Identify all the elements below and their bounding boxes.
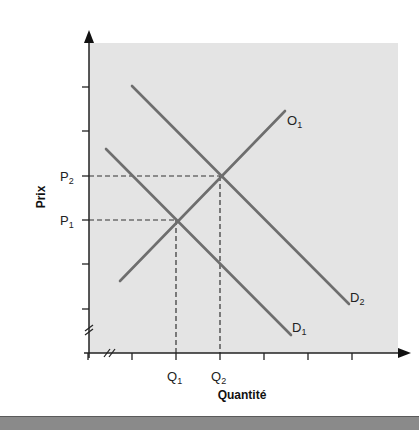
x-axis-title: Quantité — [218, 388, 267, 402]
x-axis-arrow-icon — [398, 348, 411, 358]
q2-label: Q2 — [211, 369, 226, 386]
y-axis-title: Prix — [34, 185, 48, 208]
x-ticks — [88, 353, 352, 360]
bottom-bar — [0, 416, 419, 430]
q1-label: Q1 — [167, 369, 182, 386]
p1-label: P1 — [60, 213, 74, 230]
y-ticks — [82, 87, 89, 309]
y-axis-arrow-icon — [84, 30, 94, 43]
p2-label: P2 — [60, 169, 74, 186]
